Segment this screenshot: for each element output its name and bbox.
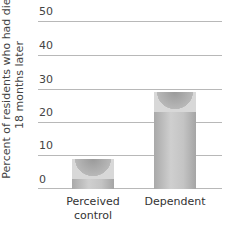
y-tick-50: 50 [39, 6, 53, 18]
y-tick-10: 10 [39, 140, 53, 152]
bar-cap [154, 92, 196, 112]
x-label-line: Dependent [135, 195, 215, 209]
bar-cap [72, 159, 114, 179]
bar-dependent [154, 92, 196, 189]
y-axis-label: Percent of residents who had died 18 mon… [0, 0, 36, 198]
gridline-30 [38, 89, 222, 90]
y-tick-0: 0 [39, 174, 46, 186]
y-axis-label-line-2: 18 months later [13, 0, 26, 198]
gridline-40 [38, 55, 222, 56]
gridline-50 [38, 21, 222, 22]
x-label-line: Perceived [53, 195, 133, 209]
x-label-line: control [53, 209, 133, 223]
y-tick-30: 30 [39, 74, 53, 86]
x-label-perceived-control: Perceived control [53, 195, 133, 223]
x-label-dependent: Dependent [135, 195, 215, 209]
bar-perceived-control [72, 159, 114, 189]
y-tick-40: 40 [39, 40, 53, 52]
y-axis-label-line-1: Percent of residents who had died [0, 0, 13, 198]
y-tick-20: 20 [39, 107, 53, 119]
